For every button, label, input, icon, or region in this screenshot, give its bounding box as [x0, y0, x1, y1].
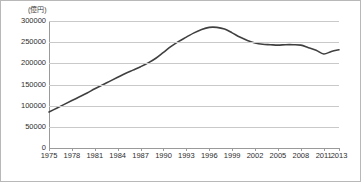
y-tick-label: 250000 [21, 38, 46, 46]
chart-frame: (億円) 05000010000015000020000025000030000… [0, 0, 361, 182]
x-tick-label: 1975 [41, 152, 58, 160]
y-tick-label: 50000 [25, 123, 46, 131]
x-tick-mark [141, 148, 142, 151]
y-tick-label: 300000 [21, 17, 46, 25]
x-tick-mark [339, 148, 340, 151]
x-tick-label: 2008 [292, 152, 309, 160]
x-tick-mark [255, 148, 256, 151]
y-tick-label: 100000 [21, 102, 46, 110]
x-tick-label: 1993 [178, 152, 195, 160]
x-tick-mark [301, 148, 302, 151]
y-tick-label: 200000 [21, 59, 46, 67]
x-tick-label: 2002 [247, 152, 264, 160]
x-tick-label: 2005 [270, 152, 287, 160]
gridline [49, 127, 339, 128]
x-tick-mark [95, 148, 96, 151]
x-tick-label: 1990 [155, 152, 172, 160]
x-axis-line [49, 148, 340, 149]
x-tick-mark [49, 148, 50, 151]
x-tick-label: 1978 [64, 152, 81, 160]
y-axis-tick-labels: 050000100000150000200000250000300000 [1, 1, 46, 182]
x-tick-label: 1987 [132, 152, 149, 160]
gridline [49, 21, 339, 22]
x-tick-label: 2011 [316, 152, 332, 160]
x-tick-label: 1999 [224, 152, 241, 160]
x-tick-label: 1981 [86, 152, 103, 160]
x-tick-label: 2013 [331, 152, 348, 160]
gridline [49, 85, 339, 86]
x-tick-mark [72, 148, 73, 151]
x-axis-tick-labels: 1975197819811984198719901993199619992002… [49, 152, 340, 166]
x-tick-mark [324, 148, 325, 151]
x-tick-mark [186, 148, 187, 151]
x-tick-label: 1984 [109, 152, 126, 160]
gridline [49, 63, 339, 64]
gridline [49, 42, 339, 43]
x-tick-mark [118, 148, 119, 151]
x-tick-mark [209, 148, 210, 151]
y-tick-label: 150000 [21, 81, 46, 89]
x-tick-mark [232, 148, 233, 151]
plot-area [49, 21, 339, 148]
x-tick-label: 1996 [201, 152, 218, 160]
series-line [49, 27, 339, 112]
x-tick-mark [163, 148, 164, 151]
x-tick-mark [278, 148, 279, 151]
gridline [49, 106, 339, 107]
